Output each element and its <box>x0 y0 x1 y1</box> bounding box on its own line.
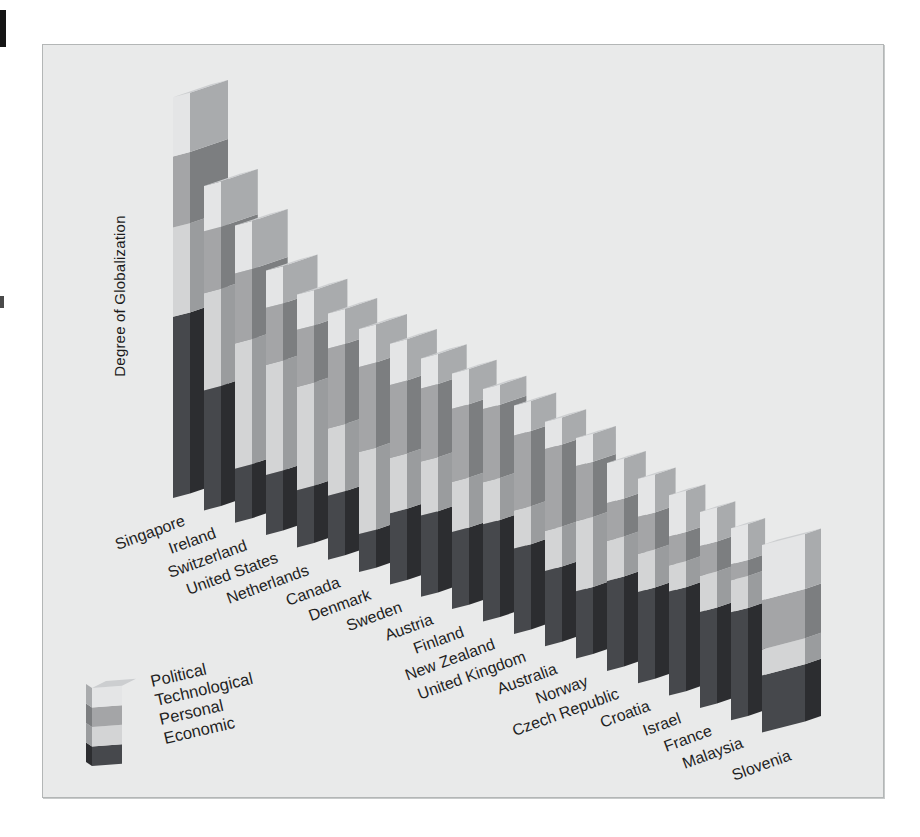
bar-economic-front-face <box>607 577 624 671</box>
bar-technological-front-face <box>390 380 407 458</box>
legend-cube-political-side-face <box>86 684 92 708</box>
bar-technological-front-face <box>545 445 562 531</box>
bar-technological-front-face <box>607 499 624 541</box>
legend-cube-personal-front-face <box>92 725 122 747</box>
bar-personal-front-face <box>359 448 376 534</box>
legend-cube-technological-side-face <box>86 704 92 728</box>
bar-political-front-face <box>700 508 717 547</box>
bar-economic-front-face <box>266 471 283 535</box>
bar-technological-front-face <box>421 384 438 462</box>
bar-economic-side-face <box>805 659 821 722</box>
bars-group <box>173 80 821 733</box>
bar-economic-front-face <box>328 491 345 560</box>
bar-personal-front-face <box>421 457 438 515</box>
bar-france <box>700 501 735 708</box>
bar-personal-front-face <box>483 478 500 524</box>
bar-personal-front-face <box>545 527 562 571</box>
bar-political-front-face <box>173 93 190 157</box>
bar-technological-front-face <box>359 363 376 453</box>
bar-political-front-face <box>669 491 686 537</box>
bar-political-front-face <box>638 474 655 516</box>
bar-economic-front-face <box>297 486 314 548</box>
legend-cube-personal-side-face <box>86 723 92 747</box>
bar-technological-front-face <box>235 269 252 343</box>
bar-political-front-face <box>452 369 469 409</box>
bar-political-front-face <box>266 266 283 308</box>
bar-economic-front-face <box>204 386 221 511</box>
bar-technological-front-face <box>204 227 221 294</box>
bar-personal-front-face <box>607 537 624 581</box>
legend: PoliticalTechnologicalPersonalEconomic <box>86 650 263 766</box>
bar-technological-side-face <box>805 584 821 639</box>
bar-political-front-face <box>762 534 805 600</box>
bar-technological-front-face <box>328 344 345 429</box>
bar-personal-front-face <box>700 572 717 613</box>
bar-personal-front-face <box>514 506 531 548</box>
legend-cube-political-front-face <box>92 686 122 708</box>
bar-political-side-face <box>805 528 821 589</box>
bar-personal-front-face <box>452 478 469 532</box>
bar-technological-front-face <box>638 512 655 554</box>
bar-personal-front-face <box>390 454 407 514</box>
bar-political-front-face <box>421 354 438 388</box>
bar-economic-front-face <box>452 528 469 610</box>
bar-technological-front-face <box>173 152 190 228</box>
bar-political-front-face <box>235 221 252 273</box>
globalization-3d-stacked-bar-chart: SingaporeIrelandSwitzerlandUnited States… <box>0 0 920 837</box>
bar-personal-front-face <box>731 576 748 612</box>
bar-political-front-face <box>545 417 562 449</box>
bar-israel <box>669 484 705 695</box>
bar-economic-front-face <box>514 544 531 634</box>
bar-personal-front-face <box>328 424 345 496</box>
bar-slovenia <box>762 528 821 732</box>
bar-personal-side-face <box>805 633 821 665</box>
bar-personal-front-face <box>669 561 686 591</box>
bar-malaysia <box>731 518 765 720</box>
bar-economic-front-face <box>173 312 190 498</box>
bar-political-front-face <box>514 401 531 435</box>
bar-economic-front-face <box>421 511 438 597</box>
bar-technological-front-face <box>452 404 469 482</box>
legend-labels: PoliticalTechnologicalPersonalEconomic <box>149 650 264 747</box>
bar-political-front-face <box>576 434 593 466</box>
bar-economic-front-face <box>390 509 407 585</box>
bar-political-front-face <box>328 309 345 349</box>
bar-personal-front-face <box>266 361 283 475</box>
bar-political-front-face <box>204 182 221 232</box>
bar-technological-front-face <box>297 325 314 387</box>
bar-economic-front-face <box>669 587 686 695</box>
bar-technological-front-face <box>669 532 686 566</box>
bar-economic-front-face <box>235 464 252 522</box>
bar-technological-front-face <box>700 542 717 577</box>
legend-cube-economic-front-face <box>92 744 122 766</box>
bar-political-front-face <box>731 524 748 564</box>
bar-political-front-face <box>607 459 624 503</box>
bar-personal-front-face <box>638 550 655 592</box>
bar-personal-front-face <box>297 383 314 491</box>
bar-technological-front-face <box>576 462 593 522</box>
bar-economic-front-face <box>700 608 717 709</box>
bar-economic-front-face <box>545 567 562 647</box>
legend-cube-technological-front-face <box>92 705 122 727</box>
legend-cube-economic-side-face <box>86 743 92 767</box>
bar-technological-front-face <box>483 405 500 483</box>
bar-personal-front-face <box>173 223 190 317</box>
bar-political-front-face <box>359 325 376 367</box>
bar-political-front-face <box>390 339 407 385</box>
bar-economic-front-face <box>576 587 593 659</box>
bar-technological-front-face <box>266 303 283 365</box>
bar-personal-front-face <box>204 289 221 391</box>
bar-economic-front-face <box>762 664 805 732</box>
bar-economic-front-face <box>731 608 748 720</box>
bar-political-front-face <box>297 290 314 330</box>
bar-technological-front-face <box>514 431 531 511</box>
bar-economic-front-face <box>638 588 655 684</box>
bar-personal-front-face <box>235 339 252 469</box>
bar-economic-front-face <box>483 520 500 622</box>
bar-economic-front-face <box>359 530 376 572</box>
figure-page: Degree of Globalization SingaporeIreland… <box>0 0 920 837</box>
bar-personal-front-face <box>576 517 593 591</box>
